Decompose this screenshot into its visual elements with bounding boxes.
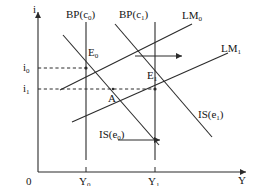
is0-label: IS(e0) xyxy=(99,128,125,142)
lm0-curve xyxy=(60,24,192,90)
marker-A xyxy=(112,88,115,91)
bp0-label: BP(c0) xyxy=(66,8,96,22)
islm-bp-diagram: BP(c0) BP(c1) LM0 LM1 IS(e0) IS(e1) E0 E… xyxy=(0,0,260,186)
axes xyxy=(38,12,246,172)
is1-label: IS(e1) xyxy=(198,108,224,122)
lm0-label: LM0 xyxy=(182,9,203,23)
lm1-label: LM1 xyxy=(221,42,242,56)
point-A-label: A xyxy=(108,92,116,104)
axis-ticks xyxy=(86,167,155,172)
bp1-label: BP(c1) xyxy=(119,8,149,22)
point-markers xyxy=(84,66,156,90)
y-axis-label: i xyxy=(33,3,36,15)
point-E1-label: E1 xyxy=(147,69,158,83)
is1-curve xyxy=(115,24,212,137)
marker-E0 xyxy=(84,66,87,69)
x-axis-label: Y xyxy=(238,174,246,186)
diagram-canvas: BP(c0) BP(c1) LM0 LM1 IS(e0) IS(e1) E0 E… xyxy=(0,0,260,186)
y-tick-label-i1: i1 xyxy=(23,82,30,96)
is-curves xyxy=(63,24,212,145)
origin-label: 0 xyxy=(26,175,32,186)
x-tick-label-Y1: Y1 xyxy=(148,175,160,186)
y-tick-label-i0: i0 xyxy=(23,61,30,75)
marker-E1 xyxy=(153,87,156,90)
x-tick-label-Y0: Y0 xyxy=(79,175,91,186)
point-E0-label: E0 xyxy=(88,46,99,60)
